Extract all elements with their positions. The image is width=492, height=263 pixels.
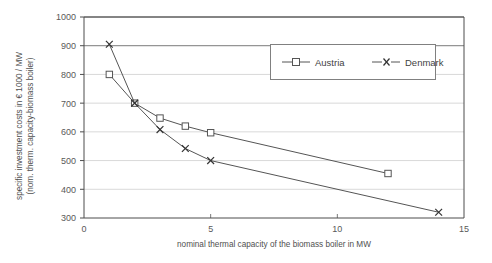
data-point-austria-12 — [385, 170, 391, 176]
chart-container: 3004005006007008009001000 051015 specifi… — [0, 0, 492, 263]
x-tick-label-0: 0 — [81, 224, 86, 234]
y-tick-label-1000: 1000 — [56, 12, 76, 22]
y-tick-label-800: 800 — [61, 70, 76, 80]
x-axis-title-text: nominal thermal capacity of the biomass … — [177, 240, 371, 249]
legend-label-austria: Austria — [315, 57, 345, 68]
y-tick-label-300: 300 — [61, 213, 76, 223]
square-marker-icon — [293, 59, 300, 66]
y-axis-tick-labels: 3004005006007008009001000 — [56, 12, 76, 223]
y-tick-label-900: 900 — [61, 41, 76, 51]
x-axis-title: nominal thermal capacity of the biomass … — [177, 240, 371, 249]
x-tick-label-15: 15 — [459, 224, 469, 234]
data-point-austria-1 — [106, 71, 112, 77]
x-tick-label-10: 10 — [332, 224, 342, 234]
y-axis-title-line2: (nom. therm. capacity-biomass boiler) — [26, 57, 35, 194]
x-axis-tick-labels: 051015 — [81, 224, 469, 234]
y-tick-label-600: 600 — [61, 127, 76, 137]
data-point-austria-5 — [207, 130, 213, 136]
legend: Austria Denmark — [271, 45, 444, 80]
y-tick-label-400: 400 — [61, 185, 76, 195]
data-point-austria-4 — [182, 123, 188, 129]
y-tick-label-500: 500 — [61, 156, 76, 166]
legend-label-denmark: Denmark — [405, 57, 444, 68]
x-tick-label-5: 5 — [208, 224, 213, 234]
y-axis-title: specific investment costs in € 1000 / MW… — [15, 52, 35, 200]
y-tick-label-700: 700 — [61, 99, 76, 109]
y-axis-ticks — [80, 17, 84, 218]
chart-canvas: 3004005006007008009001000 051015 specifi… — [0, 0, 492, 263]
data-point-austria-3 — [157, 115, 163, 121]
y-axis-title-line1: specific investment costs in € 1000 / MW — [15, 52, 24, 200]
